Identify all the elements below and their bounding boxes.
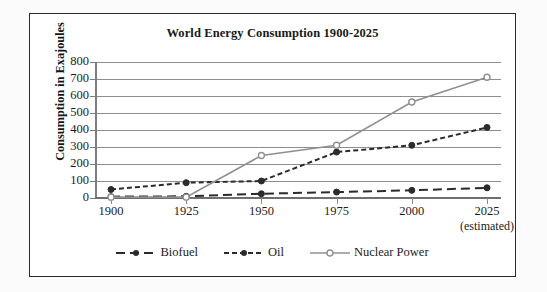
x-axis-tick-label: 2000	[377, 204, 447, 219]
y-axis-tick-label: 100	[47, 173, 89, 188]
data-point	[484, 74, 490, 80]
y-axis-tick-label: 0	[47, 190, 89, 205]
chart-image: World Energy Consumption 1900-2025 Consu…	[0, 0, 547, 292]
legend-item-oil[interactable]: Oil	[224, 245, 284, 260]
legend-label: Biofuel	[160, 245, 198, 260]
data-point	[258, 178, 264, 184]
y-axis-tick-labels: 8007006005004003002001000	[47, 62, 89, 198]
legend-marker-icon	[224, 248, 264, 258]
legend-marker-icon	[116, 248, 156, 258]
data-point	[108, 187, 114, 193]
data-point	[409, 187, 415, 193]
data-point	[334, 142, 340, 148]
data-point	[409, 99, 415, 105]
series-line-nuclear-power	[111, 77, 487, 197]
plot-area	[95, 62, 501, 198]
legend-item-biofuel[interactable]: Biofuel	[116, 245, 198, 260]
legend-label: Oil	[268, 245, 284, 260]
data-point	[409, 142, 415, 148]
legend-item-nuclear-power[interactable]: Nuclear Power	[310, 245, 429, 260]
x-axis-tick-label: 2025	[452, 204, 522, 219]
x-axis-estimated-note: (estimated)	[442, 219, 532, 234]
y-axis-tick-label: 800	[47, 54, 89, 69]
series-line-oil	[111, 127, 487, 189]
data-point	[484, 124, 490, 130]
legend-label: Nuclear Power	[354, 245, 429, 260]
y-axis-tick-label: 500	[47, 105, 89, 120]
data-point	[334, 149, 340, 155]
y-axis-tick-label: 600	[47, 88, 89, 103]
legend-marker-icon	[310, 248, 350, 258]
x-axis-tick-label: 1975	[302, 204, 372, 219]
data-point	[108, 194, 114, 200]
x-axis-tick-label: 1925	[151, 204, 221, 219]
series-lines	[95, 62, 501, 198]
series-line-biofuel	[111, 188, 487, 197]
x-axis-tick-label: 1900	[76, 204, 146, 219]
chart-title: World Energy Consumption 1900-2025	[29, 26, 516, 41]
data-point	[484, 185, 490, 191]
data-point	[258, 153, 264, 159]
data-point	[183, 194, 189, 200]
y-axis-tick-label: 200	[47, 156, 89, 171]
chart-legend: BiofuelOilNuclear Power	[29, 245, 516, 260]
data-point	[258, 191, 264, 197]
x-axis-tick-label: 1950	[226, 204, 296, 219]
y-axis-tick-label: 400	[47, 122, 89, 137]
data-point	[183, 180, 189, 186]
y-axis-tick-label: 700	[47, 71, 89, 86]
y-axis-tick-label: 300	[47, 139, 89, 154]
data-point	[334, 189, 340, 195]
